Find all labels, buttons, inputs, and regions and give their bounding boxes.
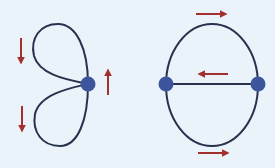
vertex	[81, 77, 96, 92]
vertex-right	[251, 77, 266, 92]
vertex-left	[159, 77, 174, 92]
graph-diagram	[0, 0, 275, 168]
